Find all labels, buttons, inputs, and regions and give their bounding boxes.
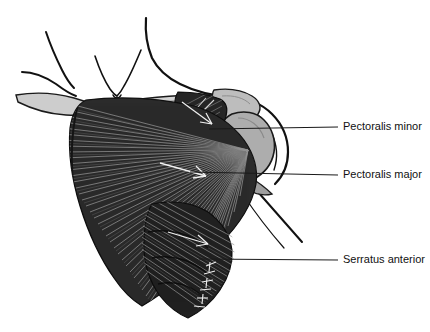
anatomy-illustration-svg: Pectoralis minor Pectoralis major Serrat… [0,0,430,332]
anatomy-figure: Pectoralis minor Pectoralis major Serrat… [0,0,430,332]
label-pectoralis-major: Pectoralis major [343,168,422,180]
label-serratus-anterior: Serratus anterior [343,253,425,265]
label-pectoralis-minor: Pectoralis minor [343,120,422,132]
